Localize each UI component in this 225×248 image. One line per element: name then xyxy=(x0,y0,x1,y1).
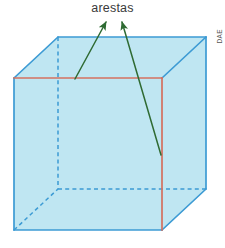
credit-watermark: DAE xyxy=(216,29,223,44)
cube-edges-figure: arestas DAE xyxy=(0,0,225,248)
arestas-label: arestas xyxy=(0,1,225,15)
cube-drawing xyxy=(0,0,225,248)
cube-faces xyxy=(14,37,206,230)
